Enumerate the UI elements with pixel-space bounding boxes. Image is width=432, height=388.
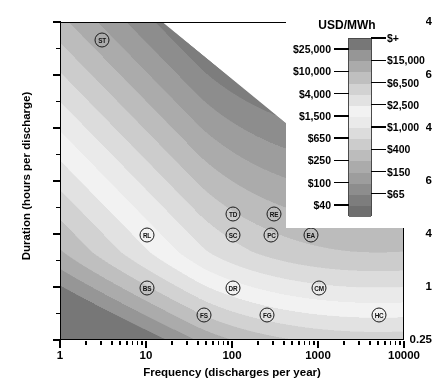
colorbar-band bbox=[349, 173, 371, 184]
colorbar-tick bbox=[371, 149, 386, 150]
colorbar-band bbox=[349, 106, 371, 117]
x-tick-mark bbox=[145, 341, 147, 348]
colorbar-band bbox=[349, 84, 371, 95]
colorbar-label: $150 bbox=[387, 167, 410, 178]
colorbar-tick bbox=[371, 171, 386, 172]
technology-marker-fs: FS bbox=[196, 307, 211, 322]
y-tick-mark bbox=[53, 286, 61, 288]
x-tick-label: 100 bbox=[202, 350, 262, 362]
y-tick-label: 1 bbox=[382, 281, 432, 293]
colorbar-band bbox=[349, 95, 371, 106]
technology-marker-cm: CM bbox=[312, 281, 327, 296]
y-tick-mark bbox=[53, 127, 61, 129]
x-tick-label: 1000 bbox=[288, 350, 348, 362]
x-tick-minor bbox=[218, 341, 220, 345]
colorbar-tick bbox=[334, 48, 349, 49]
x-tick-minor bbox=[137, 341, 139, 345]
colorbar-tick bbox=[334, 182, 349, 183]
x-tick-minor bbox=[304, 341, 306, 345]
colorbar-band bbox=[349, 150, 371, 161]
y-tick-mark bbox=[53, 180, 61, 182]
colorbar-band bbox=[349, 61, 371, 72]
technology-marker-pc: PC bbox=[264, 228, 279, 243]
x-tick-minor bbox=[126, 341, 128, 345]
colorbar-label: $2,500 bbox=[387, 100, 419, 111]
x-tick-minor bbox=[395, 341, 397, 345]
colorbar-tick bbox=[371, 37, 386, 38]
y-tick-mark bbox=[53, 74, 61, 76]
colorbar-band bbox=[349, 206, 371, 217]
colorbar-label: $250 bbox=[308, 155, 331, 166]
colorbar-tick bbox=[334, 71, 349, 72]
x-tick-minor bbox=[257, 341, 259, 345]
colorbar-tick bbox=[334, 115, 349, 116]
colorbar-band bbox=[349, 128, 371, 139]
x-tick-minor bbox=[377, 341, 379, 345]
technology-marker-st: ST bbox=[95, 32, 110, 47]
colorbar-tick bbox=[334, 160, 349, 161]
colorbar-label: $15,000 bbox=[387, 55, 425, 66]
x-tick-mark bbox=[59, 341, 61, 348]
colorbar-band bbox=[349, 139, 371, 150]
x-tick-minor bbox=[171, 341, 173, 345]
colorbar-band bbox=[349, 39, 371, 50]
x-tick-label: 10 bbox=[116, 350, 176, 362]
chart-root: STRLBSTDSCDRFSREPCFGEACMHC 0.25141664256… bbox=[0, 0, 432, 388]
colorbar-gradient bbox=[348, 38, 372, 216]
x-tick-minor bbox=[205, 341, 207, 345]
x-tick-label: 1 bbox=[30, 350, 90, 362]
y-tick-minor bbox=[56, 207, 61, 209]
colorbar-label: $10,000 bbox=[293, 66, 331, 77]
colorbar-label: $+ bbox=[387, 33, 399, 44]
colorbar-tick bbox=[371, 126, 386, 127]
x-axis-title: Frequency (discharges per year) bbox=[60, 366, 404, 378]
x-tick-minor bbox=[212, 341, 214, 345]
technology-marker-ea: EA bbox=[303, 228, 318, 243]
colorbar-tick bbox=[334, 93, 349, 94]
colorbar-band bbox=[349, 184, 371, 195]
x-tick-minor bbox=[298, 341, 300, 345]
colorbar-tick bbox=[334, 137, 349, 138]
technology-marker-hc: HC bbox=[372, 307, 387, 322]
colorbar-label: $400 bbox=[387, 144, 410, 155]
x-tick-minor bbox=[343, 341, 345, 345]
x-tick-minor bbox=[141, 341, 143, 345]
colorbar-band bbox=[349, 161, 371, 172]
x-tick-minor bbox=[85, 341, 87, 345]
colorbar-tick bbox=[371, 104, 386, 105]
colorbar-tick bbox=[371, 193, 386, 194]
technology-marker-rl: RL bbox=[140, 228, 155, 243]
x-tick-minor bbox=[272, 341, 274, 345]
y-tick-label: 4 bbox=[382, 228, 432, 240]
technology-marker-bs: BS bbox=[140, 281, 155, 296]
colorbar-label: $65 bbox=[387, 189, 405, 200]
colorbar-band bbox=[349, 117, 371, 128]
y-axis-title: Duration (hours per discharge) bbox=[20, 26, 32, 326]
y-tick-minor bbox=[56, 154, 61, 156]
x-tick-minor bbox=[358, 341, 360, 345]
x-tick-minor bbox=[283, 341, 285, 345]
colorbar-tick bbox=[371, 82, 386, 83]
colorbar-label: $6,500 bbox=[387, 78, 419, 89]
x-tick-minor bbox=[313, 341, 315, 345]
colorbar-band bbox=[349, 50, 371, 61]
y-tick-minor bbox=[56, 313, 61, 315]
technology-marker-re: RE bbox=[267, 206, 282, 221]
technology-marker-sc: SC bbox=[226, 228, 241, 243]
x-tick-minor bbox=[399, 341, 401, 345]
colorbar-tick bbox=[371, 60, 386, 61]
colorbar-label: $1,500 bbox=[299, 111, 331, 122]
colorbar-label: $25,000 bbox=[293, 44, 331, 55]
colorbar-label: $650 bbox=[308, 133, 331, 144]
colorbar-band bbox=[349, 195, 371, 206]
y-tick-minor bbox=[56, 260, 61, 262]
x-tick-minor bbox=[384, 341, 386, 345]
colorbar-band bbox=[349, 72, 371, 83]
x-tick-minor bbox=[100, 341, 102, 345]
colorbar-tick bbox=[334, 204, 349, 205]
colorbar-label: $40 bbox=[313, 200, 331, 211]
x-tick-minor bbox=[186, 341, 188, 345]
x-tick-minor bbox=[227, 341, 229, 345]
x-tick-minor bbox=[291, 341, 293, 345]
colorbar-label: $4,000 bbox=[299, 89, 331, 100]
